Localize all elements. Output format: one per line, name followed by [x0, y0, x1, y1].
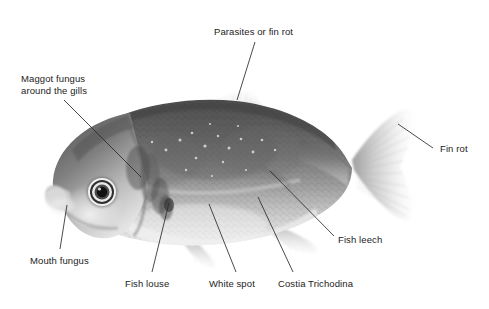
label-maggot-fungus: Maggot fungus around the gills	[21, 73, 87, 96]
label-mouth-fungus: Mouth fungus	[30, 255, 89, 267]
label-fish-leech: Fish leech	[338, 234, 382, 246]
fish-eye	[87, 177, 118, 208]
label-fin-rot: Fin rot	[440, 143, 468, 155]
label-white-spot: White spot	[209, 278, 255, 290]
label-parasites-or-fin-rot: Parasites or fin rot	[214, 26, 293, 38]
label-costia-trichodina: Costia Trichodina	[278, 278, 353, 290]
figure-container: Parasites or fin rotMaggot fungus around…	[0, 0, 489, 309]
caudal-fin	[352, 109, 414, 220]
label-fish-louse: Fish louse	[125, 278, 169, 290]
